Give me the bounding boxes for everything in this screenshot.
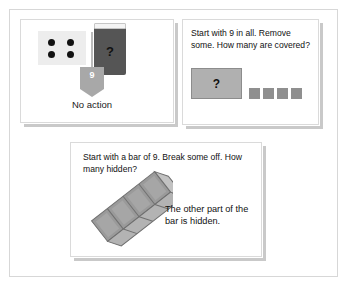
panel-remove-some: Start with 9 in all. Remove some. How ma… [182,19,319,125]
unit-square [291,88,302,99]
dice-dot-icon [67,39,74,46]
unit-square [249,88,260,99]
no-action-caption: No action [44,99,140,110]
panel-three-shadow [74,258,266,261]
panel-no-action: ? 9 No action [20,19,174,123]
unit-square [277,88,288,99]
covered-amount-box: ? [191,68,242,99]
panel-two-shadow-right [320,23,323,129]
dice-dot-icon [67,51,74,58]
panel-two-prompt: Start with 9 in all. Remove some. How ma… [191,28,315,51]
number-tag-value: 9 [80,70,104,80]
unit-square [263,88,274,99]
tag-stem [91,32,93,72]
dice-dot-icon [48,51,55,58]
cube-bar-icon [85,169,173,253]
panel-one-shadow-right [175,23,178,127]
panel-three-note: The other part of the bar is hidden. [165,203,251,227]
dice-dot-icon [48,39,55,46]
panel-two-shadow [186,126,323,129]
number-tag-point [80,89,104,97]
dice-tile [38,31,86,65]
unit-square-row [249,88,302,99]
panel-one-shadow [24,124,178,127]
screenshot-root: ? 9 No action Start with 9 in all. Remov… [0,0,349,289]
cube-bar-graphic [85,169,173,253]
panel-three-shadow-right [263,146,266,261]
panel-bar-of-nine: Start with a bar of 9. Break some off. H… [70,142,262,257]
